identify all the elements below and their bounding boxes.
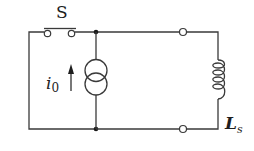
current-source-circle-top [85, 60, 107, 82]
current-source-circle-bottom [85, 73, 107, 95]
current-source [85, 32, 107, 129]
inductor-label-sub: s [237, 123, 243, 136]
switch-contact-left [44, 30, 50, 36]
switch [44, 29, 76, 37]
switch-contact-right [68, 30, 74, 36]
wire-bottom [96, 99, 218, 129]
switch-label-text: S [56, 2, 68, 22]
inductor-label-main: L [225, 113, 237, 133]
terminal-bottom [180, 126, 187, 133]
switch-label: S [56, 4, 68, 21]
terminal-top [180, 29, 187, 36]
current-source-label: i0 [46, 75, 59, 94]
current-arrow-icon [68, 64, 74, 91]
current-label-sub: 0 [51, 81, 59, 95]
circuit-diagram [0, 0, 254, 151]
inductor-label: Ls [225, 115, 243, 135]
inductor [213, 60, 225, 99]
